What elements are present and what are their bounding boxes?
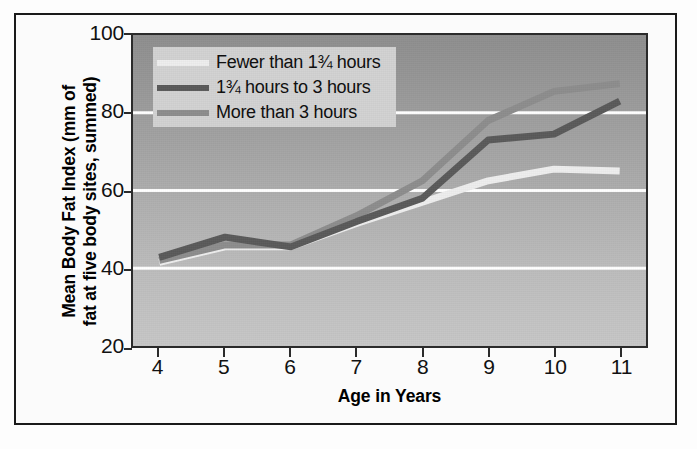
y-tick-mark-80 [124,112,132,114]
legend-item-0[interactable]: Fewer than 1¾ hours [153,50,396,75]
x-tick-mark-4 [157,348,159,357]
legend-label-more-than-3-hours: More than 3 hours [216,102,357,123]
x-tick-mark-11 [620,348,622,357]
series-line-fewer-than-1-hours [159,169,619,262]
x-tick-label-10: 10 [535,355,575,379]
y-tick-mark-20 [124,348,132,350]
legend-label-fewer-than-1-3-4-hours: Fewer than 1¾ hours [216,52,380,73]
y-axis-title: Mean Body Fat Index (mm of fat at five b… [59,36,102,366]
x-tick-label-9: 9 [469,355,509,379]
x-tick-label-5: 5 [204,355,244,379]
legend-swatch-more-than-3-hours [157,110,209,116]
y-tick-mark-60 [124,191,132,193]
x-tick-mark-5 [223,348,225,357]
figure-container: Fewer than 1¾ hours 1¾ hours to 3 hours … [0,0,697,449]
x-axis-tick-labels: 4567891011 [0,355,697,385]
x-tick-label-8: 8 [403,355,443,379]
x-tick-label-11: 11 [601,355,641,379]
x-tick-label-6: 6 [270,355,310,379]
x-tick-mark-10 [554,348,556,357]
legend-swatch-fewer-than-1-3-4-hours [157,60,209,66]
legend-swatch-1-3-4-hours-to-3-hours [157,85,209,91]
y-axis-title-wrap: Mean Body Fat Index (mm of fat at five b… [30,30,92,350]
y-axis-title-line-1: Mean Body Fat Index (mm of [59,85,79,318]
legend-item-2[interactable]: More than 3 hours [153,100,396,125]
x-tick-mark-6 [289,348,291,357]
x-tick-mark-9 [488,348,490,357]
legend-item-1[interactable]: 1¾ hours to 3 hours [153,75,396,100]
x-tick-label-7: 7 [336,355,376,379]
y-tick-mark-40 [124,269,132,271]
x-tick-mark-8 [422,348,424,357]
y-tick-mark-100 [124,33,132,35]
x-tick-label-4: 4 [138,355,178,379]
x-axis-title: Age in Years [131,386,648,407]
legend: Fewer than 1¾ hours 1¾ hours to 3 hours … [153,47,396,127]
x-tick-mark-7 [355,348,357,357]
plot-area: Fewer than 1¾ hours 1¾ hours to 3 hours … [131,33,648,348]
y-axis-title-line-2: fat at five body sites, summed) [80,77,100,327]
legend-label-1-3-4-hours-to-3-hours: 1¾ hours to 3 hours [216,77,370,98]
